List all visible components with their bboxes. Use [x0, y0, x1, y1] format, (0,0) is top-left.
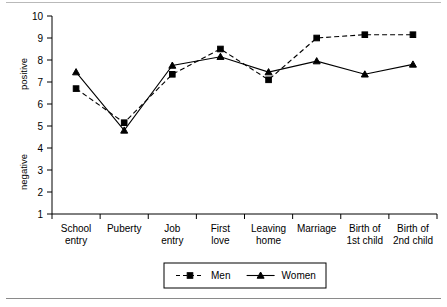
- x-tick-marks: [52, 214, 437, 219]
- x-category-labels: SchoolentryPubertyJobentryFirstloveLeavi…: [61, 223, 433, 246]
- data-point-triangle: [217, 53, 224, 59]
- y-tick-label: 1: [37, 209, 43, 220]
- line-chart: 12345678910 SchoolentryPubertyJobentryFi…: [0, 0, 447, 307]
- series-line: [76, 35, 413, 123]
- x-category-label: Marriage: [297, 223, 337, 234]
- series-men: [73, 32, 415, 126]
- y-axis: 12345678910: [32, 11, 52, 220]
- data-point-square: [266, 77, 272, 83]
- x-category-label: First: [211, 223, 231, 234]
- x-category-label: Birth of: [349, 223, 381, 234]
- y-tick-label: 8: [37, 55, 43, 66]
- x-category-label: entry: [161, 235, 183, 246]
- y-tick-label: 7: [37, 77, 43, 88]
- x-category-label: 1st child: [346, 235, 383, 246]
- y-tick-marks: [47, 16, 52, 214]
- x-category-label: love: [211, 235, 230, 246]
- y-axis-title-negative: negative: [18, 154, 29, 190]
- legend-label: Men: [211, 270, 230, 281]
- data-point-square: [73, 86, 79, 92]
- y-tick-label: 5: [37, 121, 43, 132]
- data-point-square: [362, 32, 368, 38]
- series-layer: [73, 32, 417, 133]
- x-category-label: Birth of: [397, 223, 429, 234]
- data-point-square: [218, 46, 224, 52]
- y-tick-label: 10: [32, 11, 44, 22]
- data-point-square: [121, 120, 127, 126]
- y-tick-label: 2: [37, 187, 43, 198]
- data-point-square: [410, 32, 416, 38]
- legend: MenWomen: [164, 263, 326, 288]
- y-tick-label: 6: [37, 99, 43, 110]
- x-category-label: Leaving: [251, 223, 286, 234]
- y-axis-title-positive: positive: [18, 58, 29, 90]
- series-line: [76, 57, 413, 131]
- x-category-label: 2nd child: [393, 235, 433, 246]
- y-tick-label: 3: [37, 165, 43, 176]
- data-point-triangle: [73, 69, 80, 75]
- x-category-label: home: [256, 235, 281, 246]
- y-tick-label: 9: [37, 33, 43, 44]
- y-tick-labels: 12345678910: [32, 11, 44, 220]
- x-category-label: entry: [65, 235, 87, 246]
- legend-label: Women: [282, 270, 316, 281]
- data-point-square: [187, 273, 193, 279]
- figure-panel: 12345678910 SchoolentryPubertyJobentryFi…: [0, 0, 447, 307]
- x-category-label: Job: [164, 223, 181, 234]
- data-point-triangle: [409, 61, 416, 67]
- x-category-label: Puberty: [107, 223, 141, 234]
- x-category-label: School: [61, 223, 92, 234]
- y-tick-label: 4: [37, 143, 43, 154]
- data-point-square: [170, 72, 176, 78]
- data-point-square: [314, 35, 320, 41]
- x-axis: SchoolentryPubertyJobentryFirstloveLeavi…: [52, 214, 437, 246]
- data-point-triangle: [313, 58, 320, 64]
